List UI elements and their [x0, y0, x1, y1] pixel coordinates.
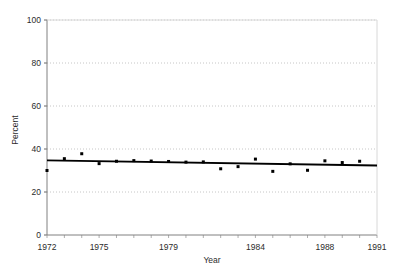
- y-axis-tick-label: 60: [32, 101, 42, 111]
- data-point: [271, 170, 274, 173]
- data-point: [306, 169, 309, 172]
- chart-container: 020406080100 197219751979198419881991 Pe…: [0, 0, 402, 278]
- data-point: [237, 165, 240, 168]
- x-axis-tick-label: 1975: [90, 242, 109, 252]
- y-axis-tick-label: 100: [27, 15, 41, 25]
- data-point: [150, 160, 153, 163]
- data-point: [80, 152, 83, 155]
- data-point: [289, 162, 292, 165]
- data-point: [323, 159, 326, 162]
- y-axis-tick-label: 80: [32, 58, 42, 68]
- x-axis-tick-label: 1979: [159, 242, 178, 252]
- data-point: [341, 161, 344, 164]
- data-point: [167, 160, 170, 163]
- x-axis-tick-label: 1972: [38, 242, 57, 252]
- data-point: [254, 158, 257, 161]
- data-point: [98, 162, 101, 165]
- x-axis-tick-label: 1991: [368, 242, 387, 252]
- data-point: [115, 160, 118, 163]
- x-axis-tick-label: 1988: [315, 242, 334, 252]
- y-axis-tick-label: 20: [32, 187, 42, 197]
- x-axis-tick-labels: 197219751979198419881991: [38, 242, 387, 252]
- y-axis-tick-label: 0: [36, 230, 41, 240]
- data-point: [184, 161, 187, 164]
- y-axis-tick-labels: 020406080100: [27, 15, 41, 240]
- data-point: [46, 169, 49, 172]
- x-axis-tick-label: 1984: [246, 242, 265, 252]
- data-point: [63, 157, 66, 160]
- y-axis-tick-label: 40: [32, 144, 42, 154]
- plot-background: [47, 20, 377, 235]
- scatter-plot: 020406080100 197219751979198419881991 Pe…: [0, 0, 402, 278]
- data-point: [219, 167, 222, 170]
- data-point: [202, 160, 205, 163]
- y-axis-title: Percent: [10, 115, 20, 145]
- data-point: [132, 159, 135, 162]
- x-axis-title: Year: [203, 255, 220, 265]
- data-point: [358, 160, 361, 163]
